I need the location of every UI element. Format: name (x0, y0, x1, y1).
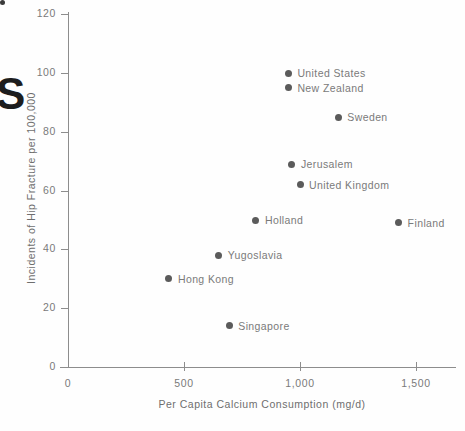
data-point-marker (335, 114, 342, 121)
y-axis-tick-mark (61, 132, 69, 133)
data-point-marker (285, 84, 292, 91)
data-point-marker (297, 181, 304, 188)
y-axis-tick-mark (61, 191, 69, 192)
data-point-label: Singapore (238, 320, 289, 332)
x-axis-tick-mark (416, 362, 417, 371)
data-point-label: Finland (408, 217, 445, 229)
data-point-marker (165, 275, 172, 282)
y-axis-tick-mark (61, 249, 69, 250)
data-point-marker (285, 70, 292, 77)
page-bleedthrough-letter: S (0, 72, 24, 116)
data-point-marker (215, 252, 222, 259)
x-axis-tick-mark (300, 362, 301, 371)
y-axis-tick-mark (61, 14, 69, 15)
data-point-marker (226, 322, 233, 329)
x-axis-tick-label: 500 (154, 377, 214, 389)
data-point-label: United States (297, 67, 365, 79)
y-axis-tick-mark (61, 73, 69, 74)
x-axis-tick-label: 1,500 (386, 377, 446, 389)
y-axis-tick-mark (61, 308, 69, 309)
data-point-marker (252, 217, 259, 224)
y-axis-tick-label: 100 (22, 66, 56, 78)
scatter-plot-figure: S 020406080100120 05001,0001,500 Inciden… (0, 0, 465, 431)
x-axis-tick-label: 1,000 (270, 377, 330, 389)
data-point-marker (288, 161, 295, 168)
x-axis-tick-label: 0 (38, 377, 98, 389)
data-point-label: Holland (265, 214, 303, 226)
data-point-marker (395, 219, 402, 226)
data-point-label: Yugoslavia (228, 249, 283, 261)
x-axis-line (60, 367, 456, 368)
page-bleedthrough-dot-icon (0, 0, 5, 5)
x-axis-tick-mark (184, 362, 185, 371)
data-point-label: United Kingdom (309, 179, 389, 191)
y-axis-tick-label: 0 (22, 360, 56, 372)
y-axis-title: Incidents of Hip Fracture per 100,000 (25, 78, 37, 298)
y-axis-tick-mark (61, 367, 69, 368)
y-axis-tick-label: 20 (22, 301, 56, 313)
x-axis-title: Per Capita Calcium Consumption (mg/d) (68, 398, 456, 410)
data-point-label: Hong Kong (178, 273, 234, 285)
y-axis-tick-label: 120 (22, 7, 56, 19)
data-point-label: New Zealand (297, 82, 363, 94)
data-point-label: Jerusalem (301, 158, 353, 170)
data-point-label: Sweden (347, 111, 387, 123)
